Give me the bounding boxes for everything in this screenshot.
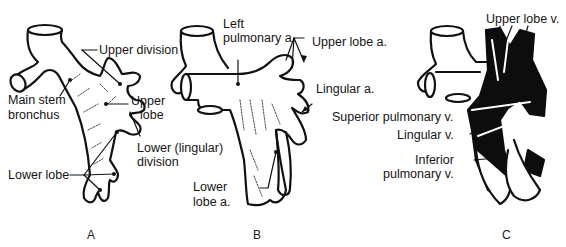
- label-upper-lobe-artery: Upper lobe a.: [312, 35, 387, 49]
- label-left-pulmonary-line2: pulmonary a.: [223, 31, 295, 45]
- label-upper-lobe-line1: Upper: [131, 94, 165, 108]
- label-lingular-vein: Lingular v.: [397, 128, 454, 142]
- panel-letter-b: B: [253, 228, 261, 242]
- label-lingular-artery: Lingular a.: [316, 82, 374, 96]
- label-superior-pulmonary-vein: Superior pulmonary v.: [332, 110, 453, 124]
- label-upper-lobe-vein: Upper lobe v.: [486, 12, 559, 26]
- label-inferior-pulmonary-vein-line1: Inferior: [415, 153, 454, 167]
- panel-letter-c: C: [502, 228, 511, 242]
- label-lower-lingular-line1: Lower (lingular): [137, 141, 223, 155]
- label-upper-division: Upper division: [99, 43, 178, 57]
- label-upper-lobe-line2: lobe: [140, 108, 164, 122]
- label-inferior-pulmonary-vein-line2: pulmonary v.: [383, 167, 454, 181]
- label-lower-lingular-line2: division: [137, 155, 179, 169]
- label-main-stem-line2: bronchus: [8, 108, 59, 122]
- label-main-stem-line1: Main stem: [8, 93, 66, 107]
- anatomy-figure: Upper division Main stem bronchus Upper …: [0, 0, 566, 247]
- label-lower-lobe: Lower lobe: [8, 168, 69, 182]
- label-left-pulmonary-line1: Left: [223, 17, 244, 31]
- panel-letter-a: A: [87, 228, 95, 242]
- pulmonary-artery-illustration: [172, 26, 312, 205]
- label-lower-lobe-artery-line2: lobe a.: [193, 195, 231, 209]
- label-lower-lobe-artery-line1: Lower: [193, 180, 227, 194]
